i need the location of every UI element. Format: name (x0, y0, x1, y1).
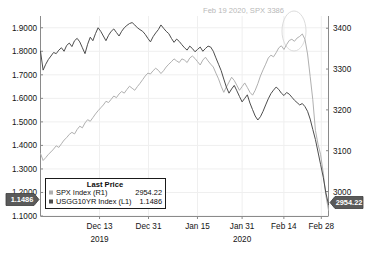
left-tick-label: 1.6000 (12, 94, 37, 103)
x-tick-label: Feb 14 (271, 222, 297, 231)
right-tick-label: 3400 (333, 24, 352, 33)
right-axis-last-price-marker: 2954.22 (330, 197, 363, 209)
left-tick-label: 1.9000 (12, 24, 37, 33)
left-axis-last-price-marker: 1.1486 (6, 194, 39, 206)
left-tick-label: 1.7000 (12, 71, 37, 80)
legend-marker-usgg10yr-icon (49, 200, 53, 204)
x-tick-label: Jan 15 (185, 222, 210, 231)
right-tick-label: 3100 (333, 147, 352, 156)
x-axis-year-label: 2019 (90, 235, 109, 244)
peak-annotation-label: Feb 19 2020, SPX 3386 (203, 6, 284, 15)
right-tick-label: 3000 (333, 188, 352, 197)
x-tick-label: Dec 31 (136, 222, 162, 231)
chart-background (0, 0, 369, 257)
left-marker-value: 1.1486 (11, 195, 34, 204)
legend-label-usgg10yr: USGG10YR Index (L1) (56, 197, 132, 206)
x-axis-year-label: 2020 (233, 235, 252, 244)
legend-value-spx: 2954.22 (135, 188, 162, 197)
x-tick-label: Jan 31 (230, 222, 255, 231)
right-marker-value: 2954.22 (336, 198, 363, 207)
legend-label-spx: SPX Index (R1) (56, 188, 107, 197)
left-tick-label: 1.4000 (12, 141, 37, 150)
legend-marker-spx-icon (49, 191, 53, 195)
left-tick-label: 1.1000 (12, 212, 37, 221)
left-tick-label: 1.5000 (12, 118, 37, 127)
left-tick-label: 1.8000 (12, 47, 37, 56)
left-tick-label: 1.3000 (12, 165, 37, 174)
right-tick-label: 3200 (333, 106, 352, 115)
right-tick-label: 3300 (333, 65, 352, 74)
legend-value-usgg10yr: 1.1486 (139, 197, 162, 206)
x-tick-label: Feb 28 (309, 222, 335, 231)
chart-canvas: 1.90001.80001.70001.60001.50001.40001.30… (0, 0, 369, 257)
legend[interactable]: Last Price SPX Index (R1) 2954.22 USGG10… (46, 179, 166, 209)
bloomberg-chart-panel: 1.90001.80001.70001.60001.50001.40001.30… (0, 0, 369, 257)
x-tick-label: Dec 13 (87, 222, 113, 231)
